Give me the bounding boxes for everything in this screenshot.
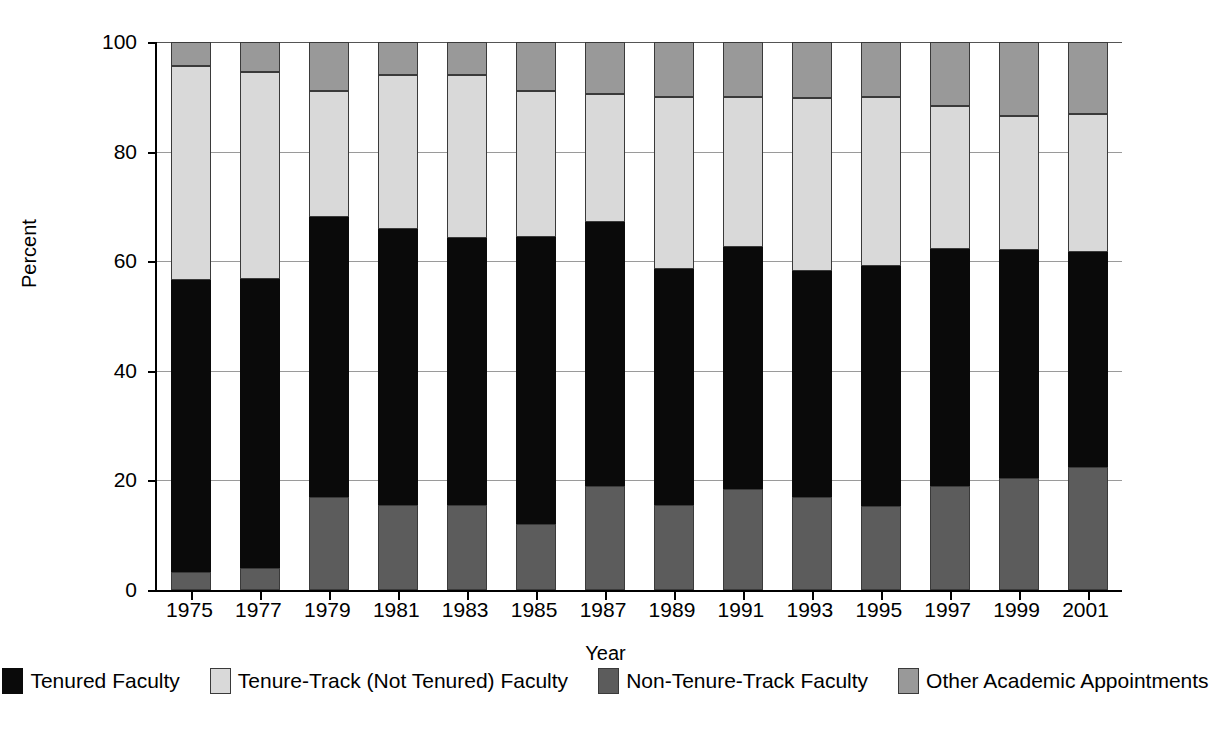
bar-segment xyxy=(792,271,832,497)
bar-segment xyxy=(585,94,625,222)
chart-container: Percent 020406080100 1975197719791981198… xyxy=(0,0,1211,735)
bar-segment xyxy=(861,42,901,97)
bar-segment xyxy=(1068,252,1108,466)
bar-segment xyxy=(654,42,694,97)
y-axis-tick xyxy=(148,42,157,44)
bar-segment xyxy=(723,97,763,247)
legend-item-label: Tenured Faculty xyxy=(30,670,179,692)
bar-segment xyxy=(378,229,418,505)
legend-swatch-icon xyxy=(210,668,231,694)
bar-segment xyxy=(516,91,556,237)
legend-item[interactable]: Non-Tenure-Track Faculty xyxy=(598,668,868,694)
x-axis-tick-label: 1999 xyxy=(982,598,1052,622)
y-axis-tick xyxy=(148,152,157,154)
bar-segment xyxy=(654,505,694,590)
legend-swatch-icon xyxy=(898,668,919,694)
x-axis-tick-label: 1975 xyxy=(154,598,224,622)
bar-group xyxy=(516,42,556,590)
bar-segment xyxy=(447,42,487,75)
x-axis-tick-label: 1997 xyxy=(913,598,983,622)
x-axis-tick-label: 1983 xyxy=(430,598,500,622)
x-axis-title: Year xyxy=(0,642,1211,665)
bar-segment xyxy=(585,42,625,94)
legend-item[interactable]: Tenure-Track (Not Tenured) Faculty xyxy=(210,668,568,694)
bar-group xyxy=(309,42,349,590)
bar-group xyxy=(585,42,625,590)
bar-segment xyxy=(723,489,763,590)
bar-segment xyxy=(240,42,280,72)
bar-segment xyxy=(654,97,694,269)
gridline xyxy=(157,152,1122,153)
bar-segment xyxy=(309,497,349,590)
y-axis-tick xyxy=(148,480,157,482)
bar-group xyxy=(654,42,694,590)
bar-group xyxy=(171,42,211,590)
y-axis-tick-label: 60 xyxy=(67,250,137,271)
bar-segment xyxy=(999,116,1039,250)
legend-item-label: Other Academic Appointments xyxy=(926,670,1209,692)
y-axis-tick xyxy=(148,371,157,373)
chart-legend: Tenured FacultyTenure-Track (Not Tenured… xyxy=(0,668,1211,694)
bar-segment xyxy=(1068,467,1108,590)
bar-group xyxy=(378,42,418,590)
bar-segment xyxy=(861,266,901,506)
legend-swatch-icon xyxy=(2,668,23,694)
bar-group xyxy=(930,42,970,590)
legend-item-label: Tenure-Track (Not Tenured) Faculty xyxy=(238,670,568,692)
bar-segment xyxy=(999,250,1039,477)
bar-segment xyxy=(171,66,211,280)
gridline xyxy=(157,480,1122,481)
x-axis-tick-label: 1993 xyxy=(775,598,845,622)
bar-segment xyxy=(792,98,832,271)
bar-segment xyxy=(723,42,763,97)
bar-segment xyxy=(309,217,349,496)
bar-group xyxy=(861,42,901,590)
bar-segment xyxy=(171,280,211,572)
legend-item[interactable]: Tenured Faculty xyxy=(2,668,179,694)
bar-group xyxy=(999,42,1039,590)
bar-group xyxy=(240,42,280,590)
gridline xyxy=(157,42,1122,43)
y-axis-tick-label: 80 xyxy=(67,141,137,162)
bar-segment xyxy=(171,42,211,66)
y-axis-tick xyxy=(148,261,157,263)
bar-segment xyxy=(999,42,1039,116)
bar-segment xyxy=(240,568,280,590)
gridline xyxy=(157,261,1122,262)
plot-area xyxy=(155,42,1122,592)
bar-segment xyxy=(861,97,901,266)
legend-item[interactable]: Other Academic Appointments xyxy=(898,668,1209,694)
y-axis-tick-label: 100 xyxy=(67,31,137,52)
bar-segment xyxy=(930,486,970,590)
bar-segment xyxy=(309,91,349,217)
bar-segment xyxy=(378,75,418,228)
legend-item-label: Non-Tenure-Track Faculty xyxy=(626,670,868,692)
y-axis-title: Percent xyxy=(18,219,41,288)
bar-segment xyxy=(516,42,556,91)
bar-segment xyxy=(792,497,832,590)
bar-segment xyxy=(792,42,832,98)
x-axis-tick-label: 1991 xyxy=(706,598,776,622)
bar-segment xyxy=(447,238,487,505)
bar-segment xyxy=(240,72,280,279)
y-axis-tick-label: 0 xyxy=(67,579,137,600)
x-axis-tick-label: 1985 xyxy=(499,598,569,622)
x-axis-tick-label: 1981 xyxy=(361,598,431,622)
bar-segment xyxy=(1068,114,1108,253)
bar-segment xyxy=(516,524,556,590)
bar-segment xyxy=(378,505,418,590)
bar-group xyxy=(1068,42,1108,590)
bar-group xyxy=(792,42,832,590)
bar-segment xyxy=(585,486,625,590)
bar-group xyxy=(447,42,487,590)
bar-segment xyxy=(585,222,625,486)
bar-segment xyxy=(447,75,487,238)
bar-segment xyxy=(378,42,418,75)
x-axis-tick-label: 1977 xyxy=(223,598,293,622)
bar-segment xyxy=(930,106,970,248)
legend-swatch-icon xyxy=(598,668,619,694)
bar-segment xyxy=(654,269,694,505)
bar-segment xyxy=(1068,42,1108,114)
bar-segment xyxy=(930,42,970,106)
bar-segment xyxy=(999,478,1039,590)
